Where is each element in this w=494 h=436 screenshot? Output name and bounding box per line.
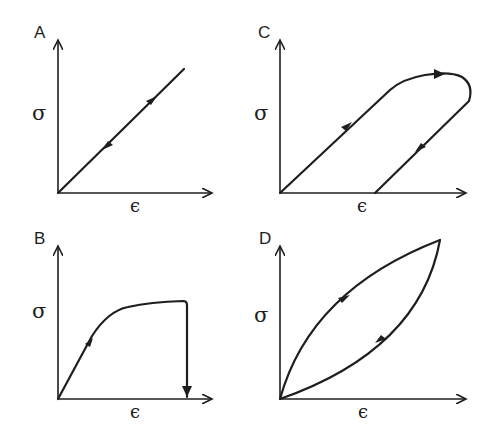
arrow-down-icon — [375, 335, 386, 343]
panel-d: D σ ϵ — [254, 229, 466, 422]
arrow-right-icon — [434, 69, 445, 79]
sigma-label-c: σ — [254, 101, 268, 125]
panel-label-b: B — [34, 229, 45, 248]
elastic-line-a — [58, 69, 184, 193]
epsilon-label-a: ϵ — [130, 195, 140, 216]
arrow-down-icon — [102, 141, 113, 150]
arrow-down-icon — [182, 386, 192, 397]
stress-strain-figure: A σ ϵ C σ ϵ B σ ϵ D σ ϵ — [0, 0, 494, 436]
panel-label-c: C — [258, 23, 270, 42]
panel-label-d: D — [259, 229, 271, 248]
panel-a: A σ ϵ — [32, 23, 212, 216]
panel-b: B σ ϵ — [32, 229, 212, 422]
loop-path-c — [280, 73, 470, 193]
sigma-label-b: σ — [32, 299, 46, 323]
panel-label-a: A — [34, 23, 46, 42]
sigma-label-a: σ — [32, 101, 46, 125]
loading-curve-d — [280, 240, 440, 399]
panel-c: C σ ϵ — [254, 23, 470, 216]
epsilon-label-c: ϵ — [357, 195, 367, 216]
epsilon-label-b: ϵ — [130, 401, 140, 422]
sigma-label-d: σ — [254, 303, 268, 327]
unloading-curve-d — [280, 240, 440, 399]
epsilon-label-d: ϵ — [358, 401, 368, 422]
yield-curve-b — [58, 301, 187, 399]
